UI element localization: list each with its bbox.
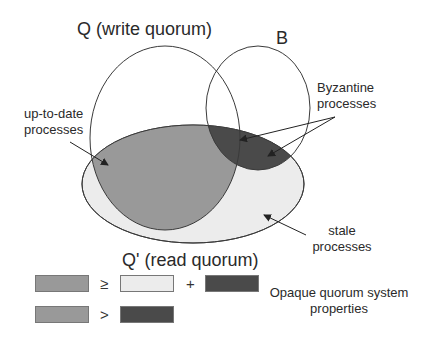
legend-geq-operator: ≥	[100, 275, 108, 292]
up-to-date-label: up-to-date processes	[24, 106, 83, 138]
legend-caption-line1: Opaque quorum system	[264, 285, 414, 301]
legend-stale-swatch	[120, 275, 174, 292]
legend-up-to-date-swatch-2	[35, 306, 89, 323]
byzantine-set-label: B	[276, 28, 288, 48]
byzantine-arrow-2	[268, 117, 335, 156]
legend-gt-operator: >	[100, 306, 109, 323]
byzantine-label-line2: processes	[317, 96, 376, 112]
legend-byzantine-swatch-2	[120, 306, 174, 323]
stale-processes-label: stale processes	[305, 223, 379, 255]
read-quorum-label: Q' (read quorum)	[122, 250, 259, 270]
legend-up-to-date-swatch	[35, 275, 89, 292]
legend-caption: Opaque quorum system properties	[264, 285, 414, 317]
up-to-date-label-line2: processes	[24, 122, 83, 138]
legend-plus-operator: +	[186, 275, 195, 292]
legend-byzantine-swatch	[205, 275, 259, 292]
byzantine-label-line1: Byzantine	[317, 80, 376, 96]
legend-caption-line2: properties	[264, 301, 414, 317]
byzantine-region	[206, 46, 310, 170]
stale-label-line1: stale	[305, 223, 379, 239]
byzantine-arrow-1	[240, 117, 335, 140]
byzantine-processes-label: Byzantine processes	[317, 80, 376, 112]
up-to-date-label-line1: up-to-date	[24, 106, 83, 122]
write-quorum-label: Q (write quorum)	[77, 19, 212, 39]
stale-label-line2: processes	[305, 239, 379, 255]
